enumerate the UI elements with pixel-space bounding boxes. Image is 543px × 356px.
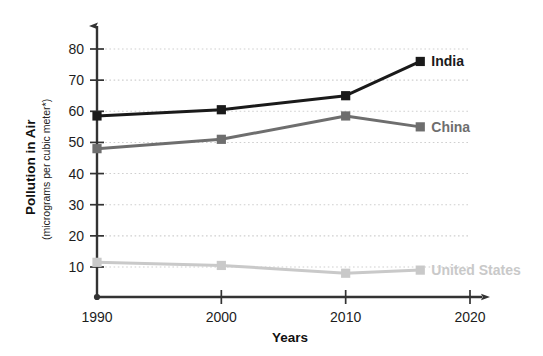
y-tick-label: 70	[68, 72, 84, 88]
pollution-line-chart: 1020304050607080 1990200020102020 IndiaC…	[0, 0, 543, 356]
x-axis-tick-labels: 1990200020102020	[81, 309, 485, 325]
data-point-marker	[416, 57, 425, 66]
series-label-china: China	[431, 119, 470, 135]
series-label-india: India	[431, 53, 464, 69]
y-tick-label: 60	[68, 103, 84, 119]
data-point-marker	[92, 258, 101, 267]
gridlines	[101, 49, 470, 267]
y-tick-label: 80	[68, 41, 84, 57]
data-point-marker	[416, 266, 425, 275]
x-tick-label: 2020	[454, 309, 485, 325]
y-tick-label: 30	[68, 197, 84, 213]
y-axis-title: Pollution in Air	[23, 119, 38, 215]
data-series-group	[97, 61, 420, 273]
data-point-marker	[341, 111, 350, 120]
origin-dot	[94, 294, 100, 300]
series-labels-group: IndiaChinaUnited States	[431, 53, 521, 278]
data-markers-group	[92, 57, 424, 278]
y-tick-label: 40	[68, 166, 84, 182]
x-tick-label: 2010	[330, 309, 361, 325]
series-line-india	[97, 61, 420, 116]
y-tick-label: 50	[68, 134, 84, 150]
series-label-united-states: United States	[431, 262, 521, 278]
data-point-marker	[217, 105, 226, 114]
data-point-marker	[341, 269, 350, 278]
y-tick-label: 20	[68, 228, 84, 244]
series-line-china	[97, 116, 420, 149]
chart-container: 1020304050607080 1990200020102020 IndiaC…	[0, 0, 543, 356]
data-point-marker	[92, 144, 101, 153]
data-point-marker	[217, 261, 226, 270]
x-tick-label: 1990	[81, 309, 112, 325]
data-point-marker	[92, 111, 101, 120]
series-line-united-states	[97, 262, 420, 273]
data-point-marker	[416, 122, 425, 131]
data-point-marker	[341, 91, 350, 100]
y-axis-subtitle: (micrograms per cubic meter*)	[40, 99, 52, 240]
x-tick-label: 2000	[206, 309, 237, 325]
y-tick-label: 10	[68, 259, 84, 275]
x-axis-title: Years	[272, 330, 308, 345]
y-axis-tick-labels: 1020304050607080	[68, 41, 84, 275]
data-point-marker	[217, 135, 226, 144]
